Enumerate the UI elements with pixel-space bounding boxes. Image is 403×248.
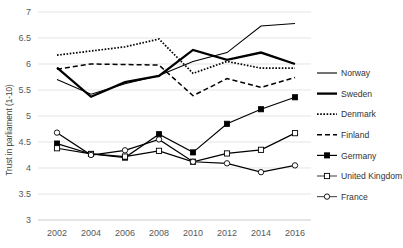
- chart-canvas: 33.544.555.566.57 2002200420062008201020…: [0, 0, 403, 248]
- data-point-marker: [122, 148, 127, 153]
- data-point-marker: [258, 107, 263, 112]
- x-tick-label: 2002: [47, 228, 67, 238]
- data-point-marker: [258, 147, 263, 152]
- legend-item-sweden[interactable]: Sweden: [317, 89, 372, 99]
- x-tick-label: 2010: [183, 228, 203, 238]
- data-point-marker: [190, 159, 195, 164]
- data-point-marker: [224, 121, 229, 126]
- data-point-marker: [156, 137, 161, 142]
- x-axis-tick-labels: 20022004200620082010201220142016: [47, 228, 305, 238]
- x-tick-label: 2008: [149, 228, 169, 238]
- data-point-marker: [292, 95, 297, 100]
- legend-item-denmark[interactable]: Denmark: [317, 109, 377, 119]
- legend-item-finland[interactable]: Finland: [317, 130, 369, 140]
- legend-label: United Kingdom: [341, 171, 402, 181]
- legend-label: Norway: [341, 68, 371, 78]
- y-tick-label: 7: [26, 7, 31, 17]
- y-tick-label: 6: [26, 59, 31, 69]
- x-tick-label: 2012: [217, 228, 237, 238]
- legend-marker-sample: [324, 173, 329, 178]
- markers-group: [54, 95, 297, 175]
- legend-marker-sample: [324, 153, 329, 158]
- data-point-marker: [292, 163, 297, 168]
- data-point-marker: [54, 146, 59, 151]
- legend-label: France: [341, 192, 368, 202]
- y-tick-label: 4: [26, 163, 31, 173]
- legend-label: Sweden: [341, 89, 372, 99]
- legend-item-germany[interactable]: Germany: [317, 151, 377, 161]
- gridlines-group: [38, 12, 311, 220]
- line-chart: 33.544.555.566.57 2002200420062008201020…: [0, 0, 403, 248]
- legend-marker-sample: [324, 194, 329, 199]
- y-tick-label: 3.5: [18, 189, 31, 199]
- data-point-marker: [156, 148, 161, 153]
- y-axis-title: Trust in parliament (1-10): [5, 84, 14, 176]
- legend-label: Finland: [341, 130, 369, 140]
- legend-label: Denmark: [341, 109, 377, 119]
- data-point-marker: [54, 130, 59, 135]
- legend-label: Germany: [341, 151, 377, 161]
- data-point-marker: [88, 152, 93, 157]
- x-tick-label: 2006: [115, 228, 135, 238]
- y-tick-label: 5.5: [18, 85, 31, 95]
- x-tick-label: 2004: [81, 228, 101, 238]
- x-tick-label: 2014: [251, 228, 271, 238]
- series-line-norway: [57, 23, 295, 94]
- data-point-marker: [156, 132, 161, 137]
- data-point-marker: [258, 169, 263, 174]
- y-tick-label: 4.5: [18, 137, 31, 147]
- legend-item-united-kingdom[interactable]: United Kingdom: [317, 171, 402, 181]
- x-tick-label: 2016: [285, 228, 305, 238]
- data-point-marker: [190, 150, 195, 155]
- y-tick-label: 6.5: [18, 33, 31, 43]
- data-point-marker: [224, 161, 229, 166]
- data-point-marker: [292, 131, 297, 136]
- data-point-marker: [122, 154, 127, 159]
- data-point-marker: [224, 151, 229, 156]
- legend-item-france[interactable]: France: [317, 192, 368, 202]
- chart-legend: NorwaySwedenDenmarkFinlandGermanyUnited …: [317, 68, 402, 202]
- legend-item-norway[interactable]: Norway: [317, 68, 371, 78]
- y-axis-tick-labels: 33.544.555.566.57: [18, 7, 31, 225]
- y-tick-label: 5: [26, 111, 31, 121]
- y-tick-label: 3: [26, 215, 31, 225]
